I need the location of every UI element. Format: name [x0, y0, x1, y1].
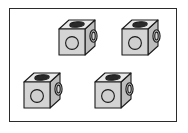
cube-top-right — [120, 17, 166, 59]
cube-bottom-left — [22, 70, 68, 112]
figure-root: Isometric cube components — [0, 0, 188, 133]
cube-bottom-right — [93, 70, 139, 112]
cube-top-left — [57, 17, 103, 59]
